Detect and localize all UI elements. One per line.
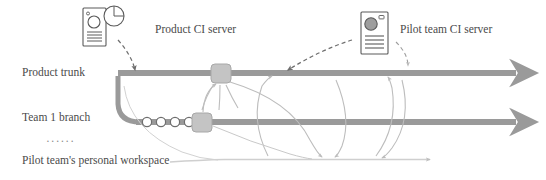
pilot-workspace-lane xyxy=(170,160,430,163)
server-dial xyxy=(365,18,377,30)
workspace-to-trunk-arrow-2 xyxy=(376,77,393,156)
team1-branch-lane xyxy=(118,76,516,122)
branch-merge-node-icon[interactable] xyxy=(192,113,212,132)
team1-branch-label: Team 1 branch xyxy=(22,112,90,124)
team1-branch-fork xyxy=(118,76,140,122)
pilot-ci-dashed-arrow-right xyxy=(396,42,408,66)
product-ci-server-icon[interactable] xyxy=(83,6,124,46)
product-ci-server-label: Product CI server xyxy=(155,24,236,36)
product-ci-dashed-arrow xyxy=(118,40,135,70)
trunk-to-workspace-arrow-2 xyxy=(335,80,346,157)
pilot-workspace-label: Pilot team's personal workspace xyxy=(22,155,169,167)
commit-node-icon[interactable] xyxy=(170,117,179,126)
pilot-workspace-line xyxy=(170,160,430,163)
trunk-fan-mid-arrow xyxy=(219,85,220,110)
pilot-ci-server-label: Pilot team CI server xyxy=(400,24,492,36)
trunk-merge-node-icon[interactable] xyxy=(211,64,231,83)
branch-to-trunk-arrow xyxy=(203,84,216,112)
pilot-ci-dashed-arrow-left xyxy=(288,40,352,70)
commit-node-icon[interactable] xyxy=(142,117,151,126)
pilot-ci-server-icon[interactable] xyxy=(361,12,388,54)
ellipsis-label: ······ xyxy=(46,136,75,148)
commit-node-icon[interactable] xyxy=(156,117,165,126)
trunk-fan-right-arrow xyxy=(226,85,238,108)
product-trunk-label: Product trunk xyxy=(22,67,85,79)
diagram-canvas: Product CI server Pilot team CI server P… xyxy=(0,0,546,180)
